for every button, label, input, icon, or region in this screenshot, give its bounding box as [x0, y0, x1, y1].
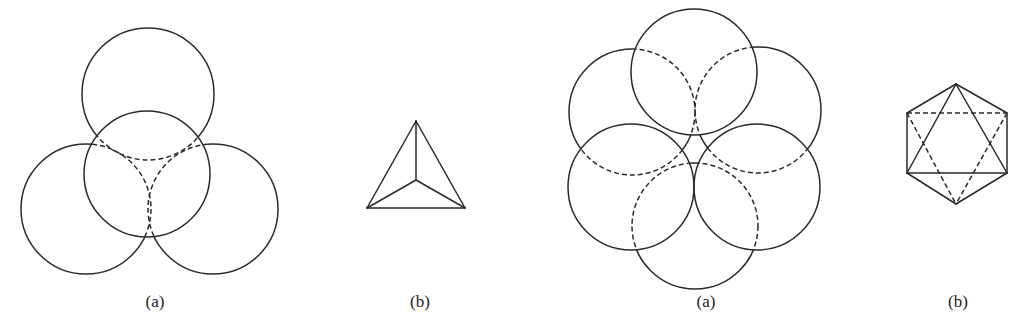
visible-edge [956, 173, 1007, 204]
tetrahedron-figure [367, 121, 465, 208]
figure-label-2b: (b) [948, 292, 968, 312]
diagram-canvas [0, 0, 1030, 335]
six-circle-packing-figure [568, 9, 821, 289]
front-circle [631, 9, 757, 135]
three-circle-packing-figure [21, 28, 278, 274]
visible-edge [367, 121, 416, 208]
visible-edge [416, 121, 465, 208]
figure-label-1b: (b) [410, 292, 430, 312]
front-circle [568, 124, 694, 250]
figure-label-1a: (a) [146, 292, 165, 312]
visible-edge [907, 173, 956, 204]
figure-label-2a: (a) [697, 292, 716, 312]
octahedron-figure [907, 84, 1007, 204]
back-circle-hidden-arc [82, 28, 214, 160]
front-circle [84, 111, 210, 237]
front-circle [694, 124, 820, 250]
visible-edge [956, 84, 1007, 173]
